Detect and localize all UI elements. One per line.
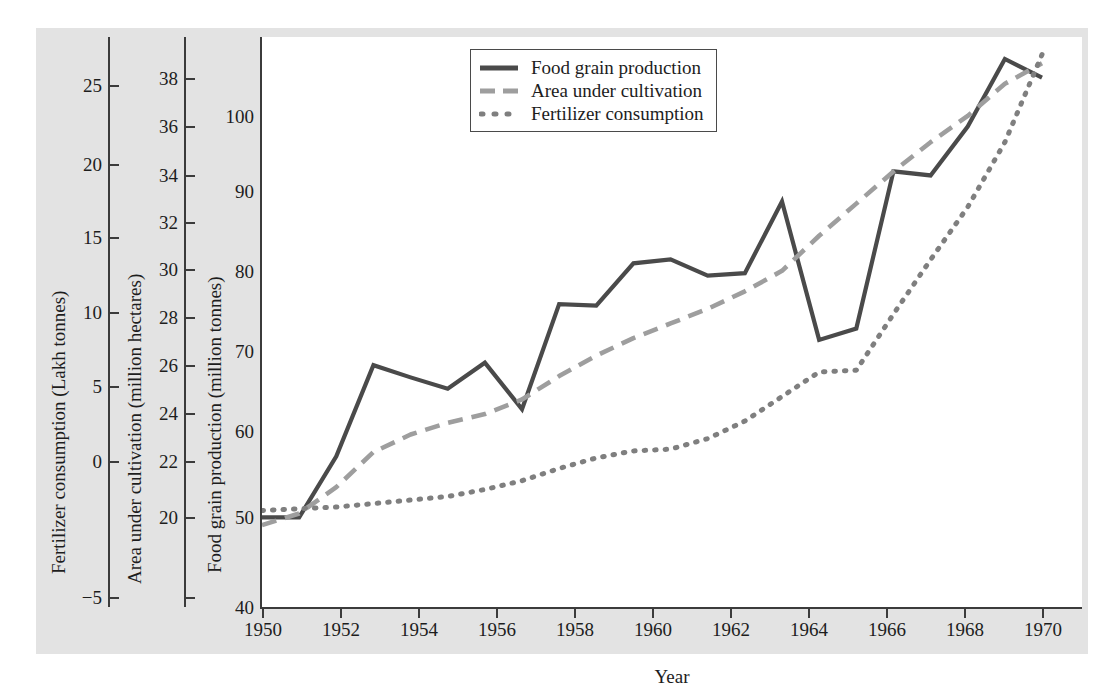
xaxis-spine [260,607,1082,609]
plot-area: Food grain production Area under cultiva… [262,37,1082,607]
area-tick-36: 36 [132,117,178,136]
xtick-1954: 1954 [389,620,449,639]
legend-swatch-solid [479,62,519,74]
area-tick-38: 38 [132,69,178,88]
production-tick-90: 90 [196,182,254,201]
fertilizer-axis-title: Fertilizer consumption (Lakh tonnes) [48,291,70,574]
xtick-1950: 1950 [233,620,293,639]
fertilizer-tick-25: 25 [56,76,102,95]
legend-swatch-dotted [479,108,519,120]
area-tick-32: 32 [132,213,178,232]
legend-label-food-grain-production: Food grain production [531,58,701,77]
fertilizer-tick-minus5: −5 [50,588,102,607]
legend-label-area-under-cultivation: Area under cultivation [531,81,702,100]
chart-legend: Food grain production Area under cultiva… [470,49,717,132]
xtick-1970: 1970 [1013,620,1073,639]
xtick-1960: 1960 [623,620,683,639]
legend-item-food-grain-production: Food grain production [479,56,704,79]
area-tick-34: 34 [132,166,178,185]
legend-item-area-under-cultivation: Area under cultivation [479,79,704,102]
fertilizer-axis-spine [108,37,110,607]
area-axis-spine [184,37,186,607]
xtick-1952: 1952 [311,620,371,639]
xtick-1956: 1956 [467,620,527,639]
chart-figure: 25 20 15 10 5 0 −5 Fertilizer consumptio… [36,28,1088,654]
xtick-1968: 1968 [935,620,995,639]
area-axis-title: Area under cultivation (million hectares… [124,274,146,584]
production-tick-40: 40 [196,598,254,617]
production-axis-title: Food grain production (million tonnes) [204,276,226,573]
xtick-1964: 1964 [779,620,839,639]
fertilizer-tick-20: 20 [56,155,102,174]
line-area-under-cultivation [262,63,1042,525]
production-tick-100: 100 [196,107,254,126]
xtick-1966: 1966 [857,620,917,639]
xtick-1958: 1958 [545,620,605,639]
xaxis-title: Year [262,666,1082,687]
legend-item-fertilizer-consumption: Fertilizer consumption [479,102,704,125]
xtick-1962: 1962 [701,620,761,639]
legend-swatch-dashed [479,85,519,97]
legend-label-fertilizer-consumption: Fertilizer consumption [531,104,704,123]
fertilizer-tick-15: 15 [56,228,102,247]
